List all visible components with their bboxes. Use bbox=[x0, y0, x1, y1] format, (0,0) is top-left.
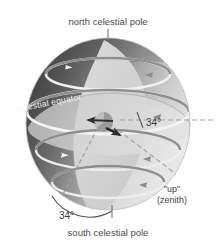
observer-sightline bbox=[88, 120, 113, 121]
celestial-sphere-svg: 34° 34° north celestial pole south celes… bbox=[0, 0, 217, 242]
south-pole-label-group: south celestial pole bbox=[68, 227, 149, 238]
celestial-sphere-body bbox=[26, 38, 217, 232]
zenith-label-up: "up" bbox=[164, 184, 180, 194]
north-pole-label-group: north celestial pole bbox=[68, 16, 147, 40]
angle-lower-label: 34° bbox=[59, 210, 74, 221]
north-celestial-pole-label: north celestial pole bbox=[68, 16, 147, 27]
south-celestial-pole-label: south celestial pole bbox=[68, 227, 149, 238]
celestial-sphere-figure: 34° 34° north celestial pole south celes… bbox=[0, 0, 217, 242]
zenith-label-paren: (zenith) bbox=[157, 195, 187, 205]
angle-upper-label: 34° bbox=[146, 117, 161, 128]
